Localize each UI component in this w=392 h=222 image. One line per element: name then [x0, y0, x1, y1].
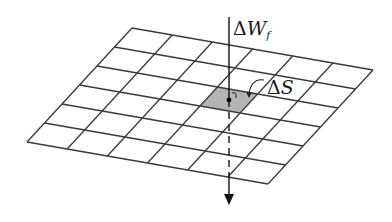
grid-line [62, 104, 303, 146]
work-label: ΔWf [233, 19, 270, 41]
grid-line [27, 142, 268, 184]
grid-surface-diagram [0, 0, 392, 222]
grid-line [45, 123, 286, 165]
point-marker [227, 98, 232, 103]
area-label: ΔS [267, 78, 294, 97]
arrowhead-icon [224, 194, 234, 205]
grid-line [115, 47, 356, 89]
leader-line [249, 80, 264, 93]
